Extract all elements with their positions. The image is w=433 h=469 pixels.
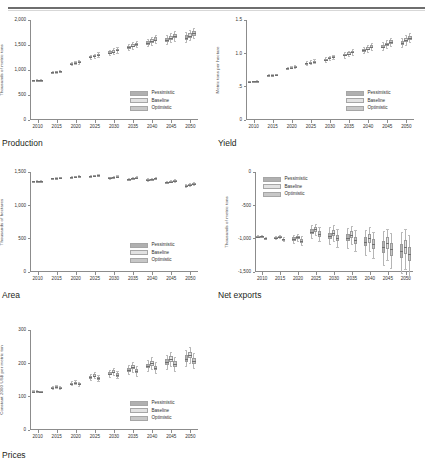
x-tick-label: 2050: [181, 124, 199, 129]
y-tick-mark: [244, 53, 247, 54]
legend-row-baseline: Baseline: [130, 408, 174, 414]
whisker-cap-lower: [71, 65, 73, 66]
whisker-cap-lower: [363, 53, 365, 54]
whisker-cap-lower: [386, 260, 388, 261]
whisker-cap-lower: [344, 58, 346, 59]
whisker-cap-lower: [113, 375, 115, 376]
whisker-cap-upper: [193, 28, 195, 29]
whisker-cap-lower: [348, 56, 350, 57]
legend-row-optimistic: Optimistic: [130, 257, 174, 263]
legend-label-pessimistic: Pessimistic: [152, 242, 175, 248]
legend-row-baseline: Baseline: [130, 250, 174, 256]
boxplot-production-optimistic-2035: [135, 41, 138, 48]
y-tick-label: 1.5: [220, 17, 242, 22]
legend-label-pessimistic: Pessimistic: [285, 176, 308, 182]
boxplot-net-exports-optimistic-2020: [300, 236, 303, 245]
whisker-cap-lower: [132, 372, 134, 373]
y-tick-mark: [28, 205, 31, 206]
boxplot-yield-optimistic-2015: [275, 74, 278, 76]
median-line: [275, 75, 278, 76]
boxplot-net-exports-optimistic-2025: [318, 227, 321, 241]
x-tick-label: 2050: [397, 276, 415, 281]
x-tick-label: 2025: [86, 124, 104, 129]
x-tick-mark: [38, 120, 39, 123]
whisker-cap-upper: [193, 353, 195, 354]
whisker-cap-lower: [351, 244, 353, 245]
whisker-cap-lower: [78, 386, 80, 387]
whisker-cap-lower: [313, 63, 315, 64]
y-tick-mark: [28, 430, 31, 431]
legend-label-pessimistic: Pessimistic: [368, 90, 391, 96]
x-tick-label: 2015: [271, 276, 289, 281]
legend-label-pessimistic: Pessimistic: [152, 400, 175, 406]
legend-label-optimistic: Optimistic: [285, 191, 305, 197]
whisker-cap-upper: [315, 224, 317, 225]
y-tick-mark: [28, 70, 31, 71]
y-tick-mark: [253, 272, 256, 273]
boxplot-yield-optimistic-2035: [351, 49, 354, 55]
legend-row-baseline: Baseline: [130, 98, 174, 104]
whisker-cap-lower: [329, 60, 331, 61]
y-tick-label: 300: [4, 327, 26, 332]
legend-swatch-optimistic: [130, 106, 148, 111]
boxplot-prices-optimistic-2010: [39, 391, 42, 393]
y-tick-mark: [28, 95, 31, 96]
whisker-cap-lower: [71, 385, 73, 386]
whisker-cap-upper: [301, 236, 303, 237]
median-line: [332, 57, 335, 58]
boxplot-area-optimistic-2025: [97, 174, 100, 176]
y-tick-mark: [244, 86, 247, 87]
whisker-cap-upper: [97, 375, 99, 376]
x-tick-mark: [292, 120, 293, 123]
whisker-cap-upper: [136, 41, 138, 42]
y-tick-mark: [28, 172, 31, 173]
boxplot-area-optimistic-2020: [78, 175, 81, 177]
whisker-cap-lower: [136, 47, 138, 48]
legend-row-optimistic: Optimistic: [130, 415, 174, 421]
y-tick-label: 0: [229, 169, 251, 174]
x-tick-label: 2035: [124, 276, 142, 281]
whisker-cap-lower: [155, 373, 157, 374]
boxplot-net-exports-optimistic-2015: [282, 237, 285, 241]
whisker-cap-lower: [352, 55, 354, 56]
whisker-cap-upper: [128, 44, 130, 45]
x-tick-mark: [368, 120, 369, 123]
boxplot-area-optimistic-2010: [39, 180, 42, 181]
legend-swatch-pessimistic: [263, 177, 281, 182]
whisker-cap-upper: [329, 227, 331, 228]
x-tick-mark: [114, 120, 115, 123]
boxplot-net-exports-optimistic-2050: [408, 235, 411, 278]
x-tick-mark: [95, 272, 96, 275]
median-line: [264, 238, 267, 239]
median-line: [313, 62, 316, 63]
whisker-cap-lower: [405, 45, 407, 46]
whisker-cap-lower: [311, 238, 313, 239]
whisker-cap-lower: [116, 378, 118, 379]
chart-panel-yield: 0.51.01.5Metric tons per hectare20102015…: [246, 20, 414, 120]
whisker-cap-lower: [116, 53, 118, 54]
y-tick-mark: [28, 330, 31, 331]
whisker-cap-upper: [189, 30, 191, 31]
x-tick-label: 2030: [321, 124, 339, 129]
x-tick-label: 2050: [181, 434, 199, 439]
median-line: [97, 55, 100, 56]
whisker-cap-upper: [365, 230, 367, 231]
x-tick-mark: [114, 430, 115, 433]
x-tick-label: 2045: [162, 434, 180, 439]
x-tick-label: 2050: [181, 276, 199, 281]
boxplot-yield-optimistic-2045: [389, 38, 392, 47]
median-line: [154, 40, 157, 41]
x-tick-mark: [190, 272, 191, 275]
y-tick-label: -500: [229, 203, 251, 208]
x-tick-label: 2010: [29, 124, 47, 129]
whisker-cap-lower: [318, 241, 320, 242]
whisker-cap-upper: [116, 47, 118, 48]
median-line: [354, 240, 357, 241]
legend-swatch-pessimistic: [130, 91, 148, 96]
whisker-cap-upper: [170, 352, 172, 353]
whisker-cap-lower: [279, 238, 281, 239]
x-tick-label: 2045: [378, 124, 396, 129]
x-tick-mark: [57, 272, 58, 275]
whisker-cap-upper: [174, 357, 176, 358]
x-tick-label: 2040: [359, 124, 377, 129]
